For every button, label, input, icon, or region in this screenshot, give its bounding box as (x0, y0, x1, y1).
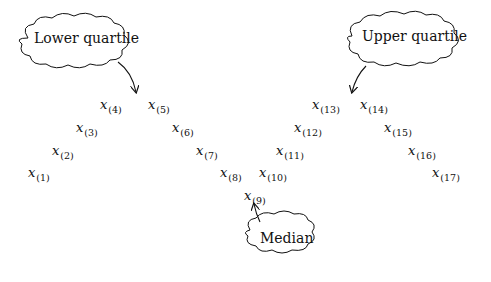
order-statistic: x(4) (100, 97, 122, 112)
variable-symbol: x (148, 97, 155, 112)
order-index: (6) (180, 127, 193, 138)
order-statistic: x(8) (220, 165, 242, 180)
order-index: (1) (36, 172, 49, 183)
order-index: (7) (204, 150, 217, 161)
variable-symbol: x (28, 165, 35, 180)
order-statistic: x(3) (76, 120, 98, 135)
order-statistic: x(16) (408, 143, 436, 158)
variable-symbol: x (76, 120, 83, 135)
variable-symbol: x (259, 165, 266, 180)
order-statistic: x(9) (244, 188, 266, 203)
variable-symbol: x (244, 188, 251, 203)
order-index: (17) (440, 172, 460, 183)
order-index: (16) (416, 150, 436, 161)
order-index: (12) (302, 127, 322, 138)
variable-symbol: x (408, 143, 415, 158)
median-label: Median (260, 230, 313, 246)
order-statistic: x(1) (28, 165, 50, 180)
order-index: (5) (156, 104, 169, 115)
variable-symbol: x (172, 120, 179, 135)
order-statistic: x(11) (276, 143, 304, 158)
order-statistic: x(15) (384, 120, 412, 135)
order-index: (4) (108, 104, 121, 115)
upper-quartile-arrow (352, 66, 366, 92)
order-index: (15) (392, 127, 412, 138)
order-statistic: x(12) (294, 120, 322, 135)
order-statistic: x(14) (360, 97, 388, 112)
order-index: (2) (60, 150, 73, 161)
variable-symbol: x (384, 120, 391, 135)
variable-symbol: x (220, 165, 227, 180)
order-index: (11) (284, 150, 304, 161)
variable-symbol: x (52, 143, 59, 158)
order-statistic: x(6) (172, 120, 194, 135)
variable-symbol: x (312, 97, 319, 112)
order-statistic: x(10) (259, 165, 287, 180)
order-statistic: x(5) (148, 97, 170, 112)
variable-symbol: x (276, 143, 283, 158)
variable-symbol: x (360, 97, 367, 112)
variable-symbol: x (196, 143, 203, 158)
order-index: (10) (267, 172, 287, 183)
order-index: (14) (368, 104, 388, 115)
order-statistic: x(17) (432, 165, 460, 180)
variable-symbol: x (294, 120, 301, 135)
order-statistic: x(2) (52, 143, 74, 158)
order-index: (9) (252, 195, 265, 206)
lower-quartile-arrow (118, 62, 136, 92)
order-statistic: x(13) (312, 97, 340, 112)
variable-symbol: x (432, 165, 439, 180)
order-index: (13) (320, 104, 340, 115)
order-index: (8) (228, 172, 241, 183)
lower-quartile-label: Lower quartile (34, 30, 139, 46)
order-statistic: x(7) (196, 143, 218, 158)
order-index: (3) (84, 127, 97, 138)
upper-quartile-label: Upper quartile (362, 28, 467, 44)
variable-symbol: x (100, 97, 107, 112)
